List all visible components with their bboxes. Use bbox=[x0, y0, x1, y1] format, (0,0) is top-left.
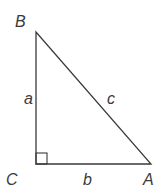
side-label-b: b bbox=[83, 171, 92, 188]
side-label-a: a bbox=[24, 90, 33, 107]
vertex-label-c: C bbox=[6, 171, 18, 188]
vertex-label-b: B bbox=[15, 13, 26, 30]
right-angle-marker bbox=[36, 153, 47, 164]
triangle bbox=[36, 32, 151, 164]
side-label-c: c bbox=[107, 90, 115, 107]
vertex-label-a: A bbox=[142, 171, 154, 188]
right-triangle-diagram: B C A a b c bbox=[0, 0, 164, 193]
